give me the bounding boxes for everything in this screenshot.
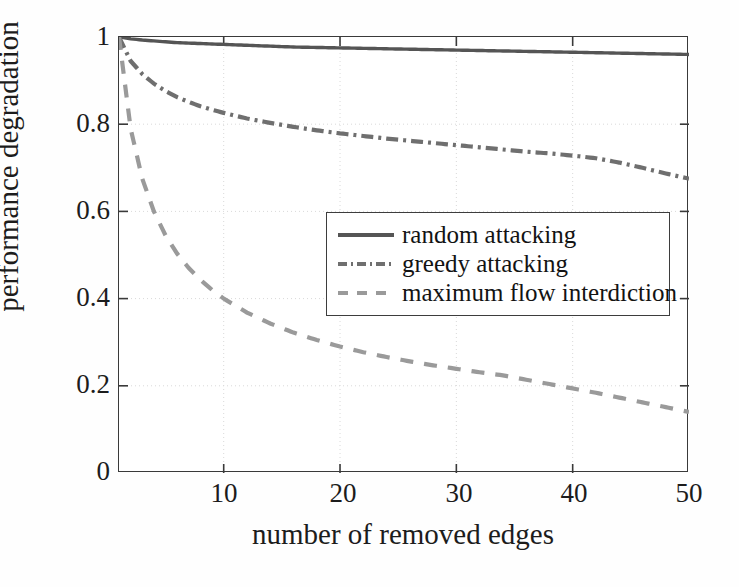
legend-line-sample-dashdot — [337, 257, 395, 271]
legend-item-maximum-flow-interdiction: maximum flow interdiction — [337, 278, 659, 307]
x-tick-label-50: 50 — [676, 480, 703, 507]
legend-label-random-attacking: random attacking — [402, 222, 576, 247]
legend-line-sample-solid — [337, 228, 395, 242]
y-tick-label-0.2: 0.2 — [48, 371, 110, 398]
legend-label-maximum-flow-interdiction: maximum flow interdiction — [402, 280, 677, 305]
series-greedy-attacking — [119, 37, 689, 179]
x-tick-label-10: 10 — [211, 480, 238, 507]
series-random-attacking — [119, 37, 689, 54]
y-axis-title: performance degradation — [0, 0, 25, 387]
y-tick-label-0.8: 0.8 — [48, 110, 110, 137]
y-tick-label-0.6: 0.6 — [48, 197, 110, 224]
y-tick-label-0: 0 — [62, 458, 110, 485]
legend-line-sample-dashed — [337, 286, 395, 300]
legend-label-greedy-attacking: greedy attacking — [402, 251, 568, 276]
y-tick-label-1: 1 — [62, 23, 110, 50]
x-tick-label-40: 40 — [561, 480, 588, 507]
legend-item-greedy-attacking: greedy attacking — [337, 249, 659, 278]
figure-canvas: 1 0.8 0.6 0.4 0.2 0 10 20 30 40 50 perfo… — [0, 0, 739, 587]
x-tick-label-20: 20 — [330, 480, 357, 507]
legend-item-random-attacking: random attacking — [337, 220, 659, 249]
legend-box: random attacking greedy attacking maximu… — [326, 212, 670, 316]
x-tick-label-30: 30 — [446, 480, 473, 507]
y-tick-label-0.4: 0.4 — [48, 284, 110, 311]
x-axis-title: number of removed edges — [118, 518, 688, 551]
